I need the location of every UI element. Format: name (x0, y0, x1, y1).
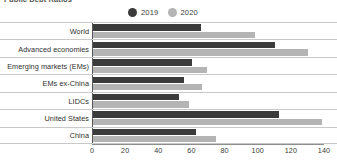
bar-group (93, 128, 337, 143)
legend-label-2019: 2019 (141, 8, 159, 17)
legend-item-2020[interactable]: 2020 (168, 8, 199, 17)
category-rows: WorldAdvanced economiesEmerging markets … (0, 22, 337, 144)
chart-legend: 2019 2020 (128, 6, 198, 18)
chart-category-row: China (0, 127, 337, 144)
chart-category-row: Emerging markets (EMs) (0, 57, 337, 74)
bar-2020[interactable] (93, 49, 308, 55)
bar-group (93, 40, 337, 56)
chart-category-row: World (0, 22, 337, 39)
chart-category-row: Advanced economies (0, 39, 337, 56)
bar-2020[interactable] (93, 119, 322, 125)
bar-2020[interactable] (93, 32, 255, 38)
bar-2019[interactable] (93, 77, 184, 83)
bar-2020[interactable] (93, 67, 207, 73)
chart-category-row: LIDCs (0, 92, 337, 109)
bar-2019[interactable] (93, 42, 275, 48)
bar-group (93, 110, 337, 126)
x-tick-label: 80 (220, 146, 228, 155)
bar-2020[interactable] (93, 136, 216, 142)
bar-2020[interactable] (93, 101, 189, 107)
x-axis-line (92, 144, 324, 145)
bar-2019[interactable] (93, 59, 192, 65)
legend-marker-2019-icon (128, 8, 137, 17)
category-label: Advanced economies (18, 44, 89, 53)
bar-group (93, 58, 337, 74)
bar-2019[interactable] (93, 94, 179, 100)
chart-category-row: EMs ex-China (0, 74, 337, 91)
legend-marker-2020-icon (168, 8, 177, 17)
bar-2020[interactable] (93, 84, 202, 90)
bar-2019[interactable] (93, 129, 196, 135)
category-label: EMs ex-China (43, 79, 89, 88)
bar-2019[interactable] (93, 24, 201, 30)
chart-container: Public Debt Ratios 2019 2020 WorldAdvanc… (0, 0, 337, 166)
bar-2019[interactable] (93, 111, 279, 117)
bar-group (93, 23, 337, 39)
x-tick-label: 0 (90, 146, 94, 155)
x-tick-label: 60 (187, 146, 195, 155)
category-label: Emerging markets (EMs) (7, 62, 89, 71)
bar-group (93, 93, 337, 109)
x-tick-label: 100 (252, 146, 264, 155)
category-label: United States (45, 114, 89, 123)
category-label: LIDCs (68, 96, 89, 105)
x-axis-ticks: 020406080100120140 (0, 146, 337, 158)
legend-label-2020: 2020 (181, 8, 199, 17)
chart-category-row: United States (0, 109, 337, 126)
category-label: China (70, 131, 89, 140)
plot-area: WorldAdvanced economiesEmerging markets … (0, 22, 337, 144)
legend-item-2019[interactable]: 2019 (128, 8, 159, 17)
x-tick-label: 20 (121, 146, 129, 155)
x-tick-label: 140 (318, 146, 330, 155)
bar-group (93, 75, 337, 91)
category-label: World (70, 27, 89, 36)
x-tick-label: 40 (154, 146, 162, 155)
chart-title: Public Debt Ratios (4, 0, 72, 4)
x-tick-label: 120 (285, 146, 297, 155)
